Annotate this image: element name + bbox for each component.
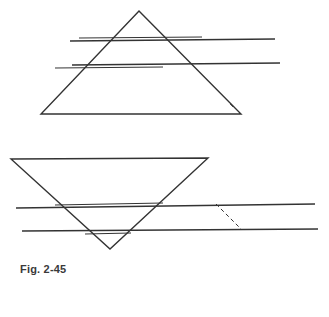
light-ray-2 bbox=[72, 63, 280, 65]
refracted-ray-1 bbox=[79, 37, 202, 38]
figure-caption: Fig. 2-45 bbox=[20, 263, 66, 275]
light-ray-2 bbox=[22, 229, 318, 231]
inverted-prism bbox=[11, 158, 318, 249]
dashed-connector bbox=[216, 204, 241, 229]
refracted-ray-2 bbox=[55, 67, 163, 68]
refracted-ray-1 bbox=[55, 203, 163, 205]
upright-triangle bbox=[41, 11, 241, 114]
light-ray-1 bbox=[70, 39, 275, 41]
upright-prism bbox=[41, 11, 280, 114]
